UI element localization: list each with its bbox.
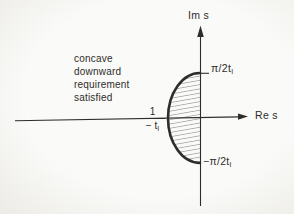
- real-axis-intercept-label: 1 − tI: [140, 106, 165, 134]
- fraction-numerator: 1: [140, 106, 165, 119]
- upper-bound-subscript: I: [231, 68, 233, 75]
- im-axis-label: Im s: [188, 9, 209, 21]
- annotation-text: concave downward requirement satisfied: [74, 52, 130, 104]
- fraction-denominator: − tI: [140, 119, 165, 134]
- re-axis-label: Re s: [255, 109, 278, 121]
- lower-bound-label: −π/2tI: [203, 155, 232, 168]
- imag-axis-arrowhead: [197, 26, 204, 38]
- fraction-denominator-main: − t: [146, 120, 157, 131]
- annotation-line: downward: [74, 65, 130, 78]
- lower-bound-subscript: I: [230, 161, 232, 168]
- fraction-denominator-subscript: I: [157, 125, 159, 132]
- lower-bound-main: −π/2t: [203, 155, 230, 167]
- annotation-line: concave: [74, 52, 130, 65]
- real-axis-line: [15, 117, 239, 121]
- upper-bound-label: π/2tI: [211, 62, 233, 75]
- annotation-line: satisfied: [74, 91, 130, 104]
- real-axis-arrowhead: [238, 114, 248, 120]
- upper-bound-main: π/2t: [211, 62, 231, 74]
- s-plane-diagram: Im s Re s π/2tI −π/2tI 1 − tI concave do…: [0, 0, 294, 214]
- annotation-line: requirement: [74, 78, 130, 91]
